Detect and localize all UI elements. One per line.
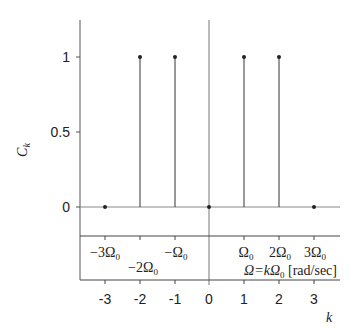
y-axis-label: Ck xyxy=(15,143,32,157)
omega-tick-m2: −2Ω0 xyxy=(128,260,158,277)
x-tick-m3: -3 xyxy=(99,291,112,307)
svg-text:Ck: Ck xyxy=(15,143,32,157)
x-tick-2: 2 xyxy=(275,291,283,307)
x-axis-label: k xyxy=(326,310,333,325)
y-tick-1: 1 xyxy=(62,49,70,65)
omega-tick-p2: 2Ω0 xyxy=(269,245,291,262)
x-tick-3: 3 xyxy=(310,291,318,307)
omega-tick-m3: −3Ω0 xyxy=(90,245,120,262)
omega-tick-m1: −Ω0 xyxy=(165,245,188,262)
y-tick-0: 0 xyxy=(62,199,70,215)
x-tick-m2: -2 xyxy=(134,291,147,307)
omega-tick-p3: 3Ω0 xyxy=(304,245,326,262)
stem-chart: 1 0.5 0 Ck −3Ω0 xyxy=(0,0,357,331)
omega-axis-label: Ω=kΩ0 [rad/sec] xyxy=(244,263,337,280)
x-tick-m1: -1 xyxy=(169,291,182,307)
x-tick-0: 0 xyxy=(205,291,213,307)
x-tick-1: 1 xyxy=(240,291,248,307)
y-tick-0.5: 0.5 xyxy=(51,124,71,140)
omega-tick-p1: Ω0 xyxy=(239,245,254,262)
